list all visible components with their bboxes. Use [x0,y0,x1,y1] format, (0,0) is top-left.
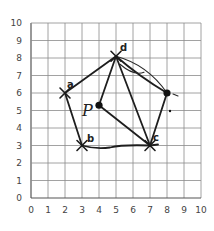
y-tick-label: 3 [16,141,22,151]
y-tick-label: 7 [16,71,22,81]
x-tick-label: 3 [79,205,85,215]
stray-dot-icon [169,110,171,112]
x-tick-label: 10 [195,205,207,215]
x-tick-label: 0 [28,205,34,215]
edge-P-d [99,56,116,105]
x-tick-label: 1 [45,205,51,215]
x-tick-label: 7 [147,205,153,215]
edge-b-a [65,93,82,146]
edge-b-c [82,145,158,149]
y-tick-label: 0 [16,193,22,203]
y-tick-label: 2 [16,158,22,168]
x-tick-label: 2 [62,205,68,215]
label-c: c [153,132,159,143]
label-b: b [87,133,94,144]
y-tick-label: 1 [16,176,22,186]
y-tick-label: 8 [16,53,22,63]
label-p: P [81,101,93,120]
y-tick-label: 9 [16,36,22,46]
x-tick-label: 9 [181,205,187,215]
x-tick-label: 6 [130,205,136,215]
diagram-canvas: 012345678910012345678910 a b c d P [0,0,214,231]
y-tick-label: 10 [11,18,23,28]
y-tick-label: 5 [16,106,22,116]
point-e-dot-icon [163,89,170,96]
label-a: a [67,79,74,90]
y-tick-label: 4 [16,123,22,133]
point-P-dot-icon [95,102,102,109]
axis-tick-labels: 012345678910012345678910 [11,18,207,215]
tick-mark [173,94,178,96]
geometry-diagram: 012345678910012345678910 a b c d P [0,0,214,231]
x-tick-label: 8 [164,205,170,215]
y-tick-label: 6 [16,88,22,98]
x-tick-label: 5 [113,205,119,215]
label-d: d [120,42,127,53]
x-tick-label: 4 [96,205,102,215]
coordinate-grid [31,23,201,198]
